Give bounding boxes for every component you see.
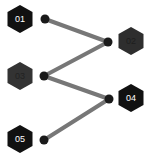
node-label: 05 xyxy=(15,134,25,144)
connector-03-04 xyxy=(44,76,109,99)
node-03: 03 xyxy=(8,62,33,90)
node-05: 05 xyxy=(8,125,33,153)
node-label: 03 xyxy=(15,71,25,81)
connector-01-02 xyxy=(45,19,108,42)
node-01: 01 xyxy=(8,5,33,33)
connector-02-03 xyxy=(44,42,108,76)
dot-01 xyxy=(41,15,50,24)
dot-05 xyxy=(40,136,49,145)
node-label: 02 xyxy=(126,36,136,46)
dot-04 xyxy=(105,95,114,104)
node-02: 02 xyxy=(119,27,144,55)
connector-04-05 xyxy=(44,99,109,140)
node-label: 01 xyxy=(15,14,25,24)
connector-lines xyxy=(44,19,109,140)
zigzag-diagram: 01 02 03 04 05 xyxy=(0,0,154,155)
node-label: 04 xyxy=(126,93,136,103)
dot-03 xyxy=(40,72,49,81)
node-04: 04 xyxy=(119,84,144,112)
dot-02 xyxy=(104,38,113,47)
